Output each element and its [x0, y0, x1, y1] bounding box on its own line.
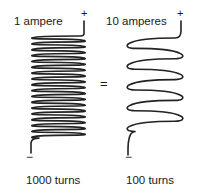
right-solenoid: 10 amperes + − 100 turns	[106, 7, 183, 186]
left-turns-label: 1000 turns	[26, 174, 81, 186]
left-positive-terminal: +	[81, 7, 87, 19]
left-solenoid: 1 ampere + − 1000 turns	[14, 7, 87, 186]
left-current-label: 1 ampere	[14, 15, 63, 27]
right-current-label: 10 amperes	[106, 15, 167, 27]
right-negative-terminal: −	[125, 150, 132, 164]
left-negative-terminal: −	[26, 150, 33, 164]
equals-sign: =	[100, 76, 108, 91]
left-coil-1000-turns	[31, 21, 85, 153]
solenoid-equivalence-diagram: 1 ampere + − 1000 turns = 10 amperes + −…	[0, 0, 199, 194]
right-coil-100-turns	[127, 21, 183, 155]
right-turns-label: 100 turns	[126, 174, 174, 186]
right-positive-terminal: +	[177, 7, 183, 19]
